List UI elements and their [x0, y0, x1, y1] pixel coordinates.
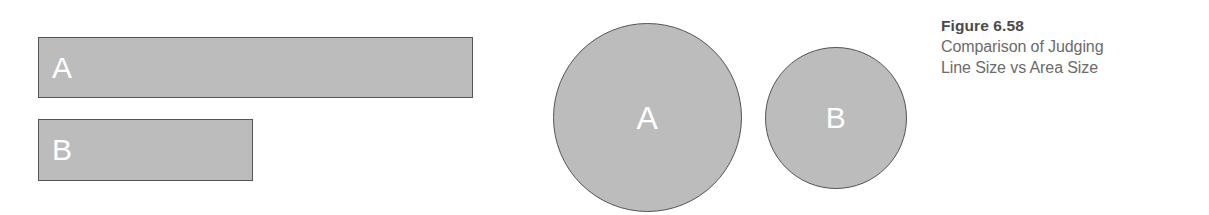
bar-a: A	[38, 37, 473, 98]
figure-caption: Figure 6.58 Comparison of Judging Line S…	[941, 15, 1191, 78]
bar-b-label: B	[52, 135, 73, 165]
figure-illustration: A B A B Figure 6.58 Comparison of Judgin…	[0, 0, 1209, 215]
circle-b-label: B	[766, 103, 906, 133]
circle-a: A	[553, 23, 742, 212]
figure-caption-line-2: Line Size vs Area Size	[941, 57, 1191, 78]
bar-b: B	[38, 119, 253, 181]
circle-a-label: A	[554, 102, 741, 134]
circle-b: B	[765, 47, 907, 189]
bar-a-label: A	[52, 53, 73, 83]
figure-caption-line-1: Comparison of Judging	[941, 36, 1191, 57]
figure-caption-number: Figure 6.58	[941, 15, 1191, 36]
